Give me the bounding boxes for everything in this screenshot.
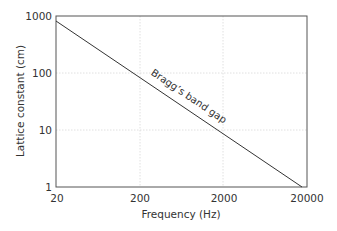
bragg-band-gap-line [56,21,302,187]
y-axis-label: Lattice constant (cm) [14,45,26,157]
x-tick-20: 20 [50,192,63,204]
x-tick-2000: 2000 [211,192,238,204]
y-tick-100: 100 [32,67,52,79]
bragg-band-gap-annotation: Bragg’s band gap [149,67,229,126]
x-axis-label: Frequency (Hz) [141,208,220,220]
x-tick-20000: 20000 [290,192,323,204]
chart: 1000 100 10 1 20 200 2000 20000 Frequenc… [0,0,337,231]
x-tick-200: 200 [130,192,150,204]
plot-frame [56,16,307,187]
gridlines [56,16,307,187]
y-tick-1000: 1000 [25,10,52,22]
y-tick-10: 10 [39,124,52,136]
